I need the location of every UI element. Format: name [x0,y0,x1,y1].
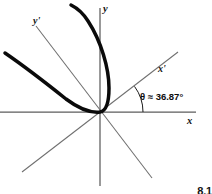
y-axis-label: y [103,4,108,15]
angle-label: θ ≈ 36.87° [140,92,183,102]
rotated-axes-figure: y x x' y' θ ≈ 36.87° 8.1 [0,0,212,194]
parabola-curve [5,5,109,112]
figure-caption: 8.1 [197,185,212,194]
y-prime-axis-line [36,26,152,178]
x-axis-label: x [187,116,192,127]
y-prime-axis-label: y' [33,16,40,26]
x-prime-axis-label: x' [158,64,166,74]
